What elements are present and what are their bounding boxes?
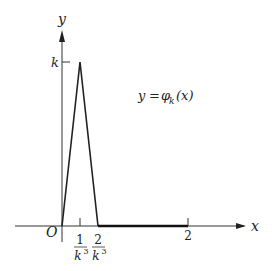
function-label-lhs: y: [137, 88, 146, 103]
y-axis-label: y: [57, 11, 67, 27]
y-tick-k: k: [51, 55, 70, 70]
y-tick-label-k: k: [51, 55, 59, 70]
function-graph: x y O k 1 k 3 2 k 3 2 y = φ k (x): [0, 0, 274, 271]
y-axis: y: [57, 11, 67, 242]
x-tick-denominator: k: [74, 249, 81, 263]
x-tick-numerator: 1: [76, 233, 84, 247]
x-axis-arrow-icon: [236, 223, 246, 229]
y-axis-arrow-icon: [59, 30, 65, 42]
x-tick-2-over-k3: 2 k 3: [92, 233, 107, 263]
x-axis-label: x: [251, 218, 259, 234]
x-tick-exponent: 3: [101, 247, 106, 256]
function-label-subscript: k: [169, 96, 174, 106]
x-tick-exponent: 3: [83, 247, 88, 256]
function-label: y = φ k (x): [137, 88, 193, 106]
x-tick-2: 2: [184, 218, 192, 243]
x-tick-denominator: k: [92, 249, 99, 263]
function-curve: [62, 62, 98, 226]
x-tick-numerator: 2: [94, 233, 102, 247]
function-label-arg: (x): [176, 88, 193, 103]
origin-label: O: [46, 224, 58, 240]
x-tick-label-2: 2: [184, 229, 192, 243]
function-label-eq: =: [149, 88, 160, 103]
x-tick-1-over-k3: 1 k 3: [74, 218, 89, 263]
